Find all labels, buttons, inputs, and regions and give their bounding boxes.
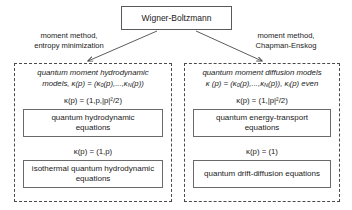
node-label-wrap: quantum hydrodynamic equations [51,113,134,134]
root-node-label: Wigner-Boltzmann [142,13,212,23]
kappa-condition-left-1: κ(p) = (1,p,|p|²/2) [15,96,171,105]
edge-label-left-line1: moment method, [14,31,124,41]
edge-label-right-line2: Chapman-Enskog [229,41,343,51]
edge-label-left: moment method, entropy minimization [14,31,124,51]
edge-label-left-line2: entropy minimization [14,41,124,51]
edge-label-right-line1: moment method, [229,31,343,41]
node-quantum-energy-transport-equations: quantum energy-transport equations [193,109,331,137]
node-quantum-drift-diffusion-equations: quantum drift-diffusion equations [193,160,331,188]
diagram-canvas: Wigner-Boltzmann moment method, entropy … [0,0,352,210]
node-label-wrap: isothermal quantum hydrodynamic equation… [32,164,154,185]
group-left-header-line2: models, κ(p) = (κ0(p),...,κN(p)) [15,79,171,90]
group-left-header-line1: quantum moment hydrodynamic [15,68,171,79]
group-quantum-moment-diffusion-models: quantum moment diffusion models κ (p) = … [184,63,340,202]
kappa-condition-right-1: κ(p) = (1,|p|²/2) [185,96,339,105]
node-isothermal-quantum-hydrodynamic-equations: isothermal quantum hydrodynamic equation… [23,160,163,188]
node-label-wrap: quantum drift-diffusion equations [204,169,320,180]
edge-label-right: moment method, Chapman-Enskog [229,31,343,51]
kappa-condition-right-2: κ(p) = (1) [185,147,339,156]
group-right-header: quantum moment diffusion models κ (p) = … [185,68,339,89]
kappa-condition-left-2: κ(p) = (1,p) [15,147,171,156]
node-label-wrap: quantum energy-transport equations [216,113,308,134]
node-wigner-boltzmann: Wigner-Boltzmann [121,6,232,30]
group-left-header: quantum moment hydrodynamic models, κ(p)… [15,68,171,89]
group-quantum-moment-hydrodynamic-models: quantum moment hydrodynamic models, κ(p)… [14,63,172,202]
node-quantum-hydrodynamic-equations: quantum hydrodynamic equations [23,109,163,137]
group-right-header-line1: quantum moment diffusion models [185,68,339,79]
group-right-header-line2: κ (p) = (κ0(p),...,κN(p)), κi(p) even [185,79,339,90]
